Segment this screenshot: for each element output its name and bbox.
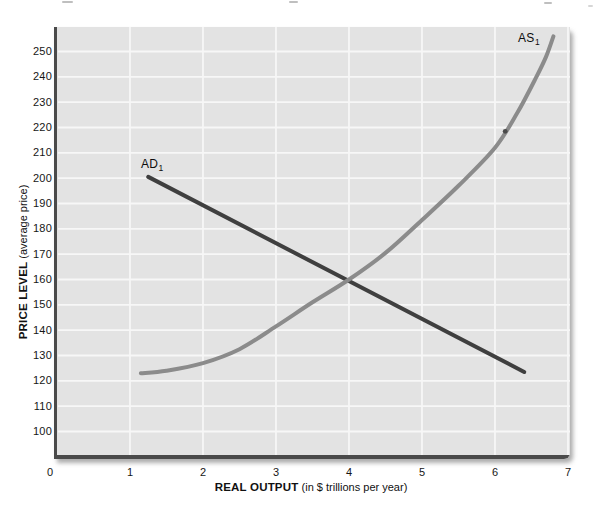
plot-background	[57, 27, 570, 455]
y-tick-label-110: 110	[18, 400, 52, 413]
x-tick-label-3: 3	[266, 466, 286, 479]
y-tick-label-220: 220	[18, 121, 52, 134]
y-tick-label-240: 240	[18, 70, 52, 83]
x-tick-label-5: 5	[412, 466, 432, 479]
x-tick-label-2: 2	[193, 466, 213, 479]
y-tick-label-140: 140	[18, 324, 52, 337]
print-artifact	[588, 5, 593, 7]
x-tick-label-4: 4	[339, 466, 359, 479]
as-ad-chart-canvas	[57, 27, 570, 455]
x-axis-title-bold: REAL OUTPUT	[215, 481, 299, 493]
print-artifact	[544, 2, 552, 4]
x-tick-label-6: 6	[485, 466, 505, 479]
y-tick-label-170: 170	[18, 248, 52, 261]
x-tick-label-0: 0	[40, 466, 60, 479]
x-axis-title: REAL OUTPUT (in $ trillions per year)	[215, 481, 408, 493]
ad-curve-label-text: AD	[141, 157, 158, 171]
y-tick-label-230: 230	[18, 96, 52, 109]
y-tick-label-130: 130	[18, 349, 52, 362]
plot-area	[54, 27, 570, 459]
textbook-chart-page: PRICE LEVEL (average price) REAL OUTPUT …	[0, 0, 596, 508]
y-tick-label-100: 100	[18, 425, 52, 438]
y-tick-label-150: 150	[18, 298, 52, 311]
y-tick-label-200: 200	[18, 172, 52, 185]
x-axis-title-normal: (in $ trillions per year)	[302, 481, 408, 493]
y-tick-label-180: 180	[18, 222, 52, 235]
speck-dot	[503, 129, 508, 134]
x-tick-label-7: 7	[558, 466, 578, 479]
y-tick-label-160: 160	[18, 273, 52, 286]
ad-curve-label-subscript: 1	[159, 163, 164, 173]
print-artifact	[289, 1, 298, 3]
y-tick-label-210: 210	[18, 146, 52, 159]
as-curve-label-text: AS	[518, 31, 534, 45]
y-tick-label-120: 120	[18, 374, 52, 387]
ad-curve-label: AD1	[141, 157, 163, 171]
y-tick-label-190: 190	[18, 197, 52, 210]
print-artifact	[62, 1, 73, 3]
x-tick-label-1: 1	[120, 466, 140, 479]
as-curve-label: AS1	[518, 31, 539, 45]
y-tick-label-250: 250	[18, 45, 52, 58]
as-curve-label-subscript: 1	[535, 37, 540, 47]
